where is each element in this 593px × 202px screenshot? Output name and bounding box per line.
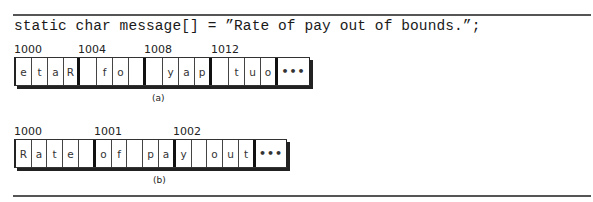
memory-row-b: R a t e o f p a y o u t ••• xyxy=(14,139,287,168)
memory-row-a: e t a R f o y a p t u o ••• xyxy=(14,57,310,86)
address-labels-b: 1000 1001 1002 xyxy=(14,126,314,138)
address-label: 1004 xyxy=(78,44,106,56)
continuation-ellipsis-icon: ••• xyxy=(278,58,310,85)
byte-cell: e xyxy=(63,140,79,167)
byte-cell xyxy=(127,140,143,167)
address-label: 1008 xyxy=(144,44,172,56)
byte-cell: R xyxy=(16,140,32,167)
address-labels-a: 1000 1004 1008 1012 xyxy=(14,44,314,56)
byte-cell: t xyxy=(239,140,256,167)
byte-cell: y xyxy=(163,58,179,85)
byte-cell: o xyxy=(261,58,278,85)
address-label: 1012 xyxy=(211,44,239,56)
caption-b: (b) xyxy=(153,175,166,185)
byte-cell xyxy=(146,58,163,85)
byte-cell: a xyxy=(32,140,47,167)
byte-cell: a xyxy=(48,58,64,85)
address-label: 1001 xyxy=(94,126,122,138)
bottom-rule xyxy=(13,195,591,197)
byte-cell: a xyxy=(179,58,195,85)
byte-cell xyxy=(192,140,207,167)
byte-cell: u xyxy=(223,140,239,167)
byte-cell: t xyxy=(47,140,63,167)
byte-cell: f xyxy=(112,140,127,167)
continuation-ellipsis-icon: ••• xyxy=(256,140,287,167)
byte-cell: e xyxy=(16,58,32,85)
byte-cell: a xyxy=(159,140,176,167)
byte-cell: p xyxy=(195,58,212,85)
top-rule xyxy=(13,14,591,16)
code-declaration: static char message[] = ”Rate of pay out… xyxy=(14,18,480,34)
caption-a: (a) xyxy=(152,93,165,103)
byte-cell: p xyxy=(143,140,159,167)
address-label: 1002 xyxy=(173,126,201,138)
byte-cell: f xyxy=(97,58,113,85)
byte-cell: u xyxy=(245,58,261,85)
byte-cell: R xyxy=(64,58,80,85)
byte-cell: y xyxy=(176,140,192,167)
byte-cell: o xyxy=(207,140,223,167)
address-label: 1000 xyxy=(14,126,42,138)
byte-cell: t xyxy=(229,58,245,85)
byte-cell xyxy=(212,58,229,85)
byte-cell xyxy=(79,140,96,167)
byte-cell xyxy=(80,58,97,85)
byte-cell: o xyxy=(113,58,129,85)
byte-cell: t xyxy=(32,58,48,85)
byte-cell: o xyxy=(96,140,112,167)
byte-cell xyxy=(129,58,146,85)
address-label: 1000 xyxy=(14,44,42,56)
